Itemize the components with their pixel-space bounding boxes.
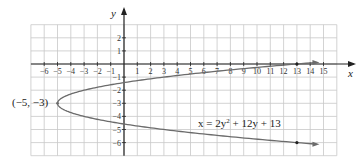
x-tick-label: 6 xyxy=(202,67,206,76)
vertex-point xyxy=(56,102,59,105)
y-axis-arrow-icon xyxy=(121,7,127,15)
equation-suffix: + 12y + 13 xyxy=(230,117,281,129)
parabola-chart: −6−5−4−3−2−112345678910111213141521−1−2−… xyxy=(0,0,362,167)
y-tick-label: −1 xyxy=(112,73,121,82)
x-tick-label: 13 xyxy=(293,67,301,76)
equation-prefix: x = 2y xyxy=(198,117,227,129)
grid xyxy=(31,25,337,156)
equation-label: x = 2y2 + 12y + 13 xyxy=(198,117,281,129)
x-tick-label: 8 xyxy=(228,67,232,76)
vertex-label: (−5, −3) xyxy=(12,96,49,109)
x-tick-label: 10 xyxy=(253,67,261,76)
x-tick-label: −4 xyxy=(67,67,76,76)
y-tick-label: 1 xyxy=(117,47,121,56)
x-tick-label: 2 xyxy=(149,67,153,76)
x-tick-label: 15 xyxy=(320,67,328,76)
x-tick-label: 11 xyxy=(266,67,274,76)
x-tick-label: −5 xyxy=(53,67,62,76)
y-tick-label: −2 xyxy=(112,86,121,95)
x-tick-label: 12 xyxy=(280,67,288,76)
y-tick-label: −5 xyxy=(112,126,121,135)
y-tick-label: −4 xyxy=(112,112,121,121)
x-axis-label: x xyxy=(347,67,353,79)
y-axis-label: y xyxy=(110,7,116,19)
x-tick-label: 14 xyxy=(306,67,314,76)
x-tick-label: 1 xyxy=(135,67,139,76)
y-tick-label: 2 xyxy=(117,34,121,43)
x-tick-label: −6 xyxy=(40,67,49,76)
y-tick-label: −6 xyxy=(112,139,121,148)
x-tick-label: 4 xyxy=(175,67,179,76)
marked-point xyxy=(295,141,298,144)
x-tick-label: −2 xyxy=(93,67,102,76)
y-tick-label: −3 xyxy=(112,99,121,108)
x-tick-label: −3 xyxy=(80,67,89,76)
marked-point xyxy=(295,62,298,65)
x-tick-label: 3 xyxy=(162,67,166,76)
